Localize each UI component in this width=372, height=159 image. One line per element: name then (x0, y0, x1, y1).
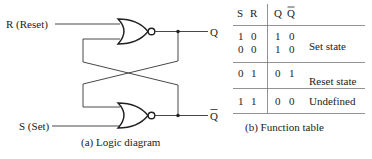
sr-latch-figure: R (Reset) S (Set) Q Q (0, 0, 372, 159)
svg-text:1: 1 (238, 95, 244, 107)
svg-text:1: 1 (275, 30, 281, 42)
header-q: Q (274, 7, 282, 19)
svg-text:0: 0 (289, 43, 295, 55)
function-table: S R Q Q 1 0 1 0 0 0 1 (233, 4, 365, 134)
svg-text:0: 0 (238, 43, 244, 55)
header-s: S (237, 7, 243, 19)
inversion-bubble-icon (148, 28, 155, 35)
svg-text:0: 0 (289, 30, 295, 42)
table-row: 1 0 1 0 (238, 30, 295, 42)
logic-diagram-caption: (a) Logic diagram (81, 136, 161, 149)
svg-text:0: 0 (275, 67, 281, 79)
svg-text:0: 0 (289, 95, 295, 107)
svg-text:0: 0 (275, 95, 281, 107)
junction-dot-icon (176, 114, 180, 118)
table-row: 0 1 0 1 (238, 67, 295, 79)
header-qbar: Q (287, 7, 295, 19)
inversion-bubble-icon (148, 112, 155, 119)
table-row: 1 1 0 0 (238, 95, 295, 107)
svg-text:1: 1 (251, 67, 257, 79)
table-header: S R Q Q (237, 7, 295, 19)
table-group-set: 1 0 1 0 0 0 1 0 Set state (238, 30, 346, 55)
bottom-nor-gate (118, 103, 155, 128)
state-description: Undefined (309, 95, 356, 107)
reset-input-label: R (Reset) (6, 18, 48, 31)
svg-text:0: 0 (251, 43, 257, 55)
svg-text:Q: Q (287, 7, 295, 19)
svg-text:0: 0 (251, 30, 257, 42)
qbar-feedback-wire (83, 39, 178, 115)
svg-text:0: 0 (238, 67, 244, 79)
svg-text:1: 1 (238, 30, 244, 42)
qbar-output-label: Q (210, 110, 218, 122)
state-description: Reset state (309, 75, 356, 87)
state-description: Set state (309, 40, 346, 52)
q-output-label: Q (210, 26, 218, 38)
set-input-label: S (Set) (19, 120, 50, 133)
logic-diagram: R (Reset) S (Set) Q Q (6, 18, 218, 149)
header-r: R (250, 7, 258, 19)
svg-text:Q: Q (210, 110, 218, 122)
svg-text:1: 1 (275, 43, 281, 55)
top-nor-gate (118, 19, 155, 44)
svg-text:1: 1 (289, 67, 295, 79)
function-table-caption: (b) Function table (245, 121, 324, 134)
table-group-reset: 0 1 0 1 0 Reset state (238, 67, 356, 87)
table-group-undefined: 1 1 0 0 Undefined (238, 95, 356, 107)
svg-text:1: 1 (251, 95, 257, 107)
table-row: 0 0 1 0 (238, 43, 295, 55)
junction-dot-icon (176, 30, 180, 34)
